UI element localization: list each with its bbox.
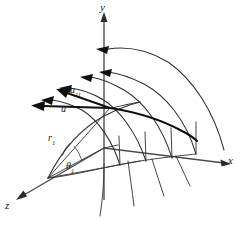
diagram-canvas [0, 0, 240, 228]
radius-label-r1: r1 [48, 133, 55, 146]
axis-label-x: x [228, 155, 233, 166]
coordinate-diagram: y x z u11 u r1 θ1 [0, 0, 240, 228]
angle-label-theta1: θ1 [66, 161, 74, 174]
radius-label-subscript: 1 [52, 139, 55, 146]
angle-label-subscript: 1 [71, 167, 74, 174]
axis-label-z: z [5, 200, 9, 211]
sector-rays [48, 108, 140, 178]
arrowhead-arc-3 [80, 74, 93, 82]
axis-label-y: y [100, 2, 105, 13]
meridian-arc-2 [108, 72, 196, 154]
vector-label-u: u [61, 104, 66, 114]
vector-label-u11: u11 [70, 85, 81, 98]
angle-arc-theta1 [74, 146, 82, 161]
meridian-arc-top [108, 48, 224, 150]
vector-u[interactable] [31, 101, 110, 111]
arrowhead-arc-2 [99, 69, 112, 77]
lower-meridian-extensions [100, 156, 190, 216]
arrowhead-arc-top [96, 46, 109, 54]
axis-z [16, 148, 104, 200]
vector-label-u11-subscript: 11 [75, 91, 81, 98]
origin-ticks [104, 145, 118, 148]
